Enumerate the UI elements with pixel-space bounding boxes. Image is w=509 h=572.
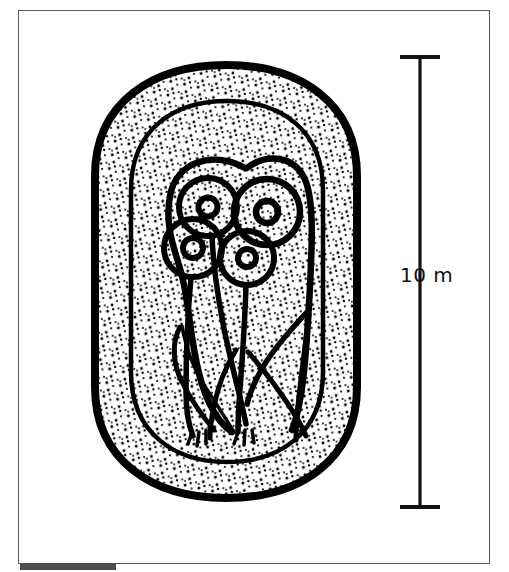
scale-bar-label: 10 m [400, 265, 453, 285]
figure-root: 10 m [0, 0, 509, 572]
caption-bar [20, 563, 116, 570]
